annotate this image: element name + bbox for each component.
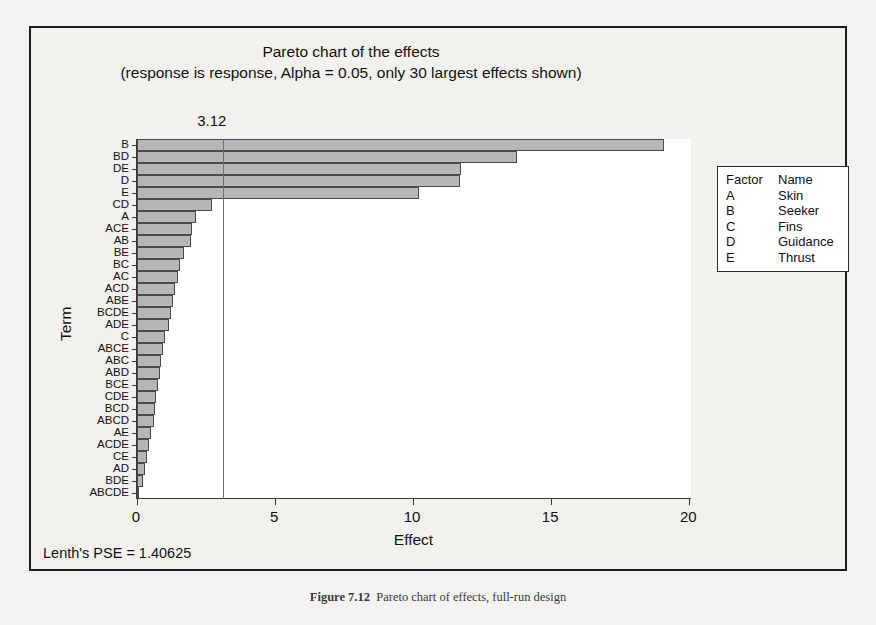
bar-fill xyxy=(137,163,461,175)
bar-ACDE xyxy=(137,439,149,451)
bar-ABCE xyxy=(137,343,163,355)
legend-row-B: BSeeker xyxy=(718,203,848,219)
x-axis-label-10: 10 xyxy=(392,508,432,525)
legend-name-C: Fins xyxy=(778,219,848,235)
x-tick-0 xyxy=(137,499,138,505)
y-axis-label-BCDE: BCDE xyxy=(31,307,129,318)
bar-CDE xyxy=(137,391,156,403)
bar-AD xyxy=(137,463,145,475)
y-axis-label-D: D xyxy=(31,175,129,186)
bar-AC xyxy=(137,271,178,283)
x-tick-20 xyxy=(689,499,690,505)
bar-ADE xyxy=(137,319,169,331)
chart-title-block: Pareto chart of the effects (response is… xyxy=(31,42,671,83)
y-axis-label-ABCD: ABCD xyxy=(31,415,129,426)
x-axis-label-0: 0 xyxy=(116,508,156,525)
y-axis-label-AB: AB xyxy=(31,235,129,246)
bar-fill xyxy=(137,259,180,271)
y-axis-label-BE: BE xyxy=(31,247,129,258)
y-tick xyxy=(132,457,137,458)
y-axis-label-AC: AC xyxy=(31,271,129,282)
bar-fill xyxy=(137,307,171,319)
bar-ACE xyxy=(137,223,192,235)
legend-name-A: Skin xyxy=(778,188,848,204)
bar-fill xyxy=(137,199,212,211)
bar-ABCD xyxy=(137,415,154,427)
y-axis-label-ABCDE: ABCDE xyxy=(31,487,129,498)
bar-B xyxy=(137,139,664,151)
y-axis-label-BDE: BDE xyxy=(31,475,129,486)
y-axis-label-ACE: ACE xyxy=(31,223,129,234)
bar-fill xyxy=(137,295,173,307)
bar-fill xyxy=(137,151,517,163)
bar-fill xyxy=(137,379,158,391)
bar-AE xyxy=(137,427,151,439)
bar-D xyxy=(137,175,460,187)
bar-ABCDE xyxy=(137,487,139,499)
reference-line xyxy=(223,139,224,499)
y-axis-label-CD: CD xyxy=(31,199,129,210)
bar-fill xyxy=(137,319,169,331)
y-axis-label-BCE: BCE xyxy=(31,379,129,390)
y-axis-label-ADE: ADE xyxy=(31,319,129,330)
bar-ABC xyxy=(137,355,161,367)
bar-BE xyxy=(137,247,184,259)
bar-fill xyxy=(137,223,192,235)
figure-caption-text: Pareto chart of effects, full-run design xyxy=(376,590,566,604)
lenths-pse-note: Lenth's PSE = 1.40625 xyxy=(43,545,191,561)
x-tick-10 xyxy=(413,499,414,505)
y-tick xyxy=(132,193,137,194)
legend-row-A: ASkin xyxy=(718,188,848,204)
y-tick xyxy=(132,289,137,290)
y-tick xyxy=(132,157,137,158)
bar-fill xyxy=(137,403,155,415)
y-tick xyxy=(132,205,137,206)
y-tick xyxy=(132,325,137,326)
factor-legend: Factor Name ASkinBSeekerCFinsDGuidanceET… xyxy=(717,166,849,272)
bar-BD xyxy=(137,151,517,163)
y-tick xyxy=(132,265,137,266)
y-tick xyxy=(132,301,137,302)
legend-row-D: DGuidance xyxy=(718,234,848,250)
y-tick xyxy=(132,181,137,182)
pareto-chart-figure: Pareto chart of the effects (response is… xyxy=(29,26,847,571)
bar-fill xyxy=(137,427,151,439)
legend-factor-E: E xyxy=(726,250,778,266)
y-tick xyxy=(132,373,137,374)
legend-factor-B: B xyxy=(726,203,778,219)
bar-fill xyxy=(137,139,664,151)
x-axis-label-20: 20 xyxy=(668,508,708,525)
bar-fill xyxy=(137,451,147,463)
bar-A xyxy=(137,211,196,223)
legend-header-name: Name xyxy=(778,172,848,188)
y-tick xyxy=(132,241,137,242)
bar-AB xyxy=(137,235,191,247)
bar-fill xyxy=(137,343,163,355)
plot-area xyxy=(136,139,691,499)
y-tick xyxy=(132,313,137,314)
bar-fill xyxy=(137,211,196,223)
y-tick xyxy=(132,385,137,386)
legend-row-E: EThrust xyxy=(718,250,848,266)
y-axis-label-ABC: ABC xyxy=(31,355,129,366)
bar-fill xyxy=(137,283,175,295)
y-tick xyxy=(132,421,137,422)
y-tick xyxy=(132,361,137,362)
chart-subtitle: (response is response, Alpha = 0.05, onl… xyxy=(31,62,671,83)
reference-line-label: 3.12 xyxy=(197,112,226,129)
y-tick xyxy=(132,409,137,410)
y-axis-label-CDE: CDE xyxy=(31,391,129,402)
x-axis-label-5: 5 xyxy=(254,508,294,525)
bar-fill xyxy=(137,367,160,379)
y-axis-label-ACDE: ACDE xyxy=(31,439,129,450)
y-axis-label-B: B xyxy=(31,139,129,150)
y-tick xyxy=(132,253,137,254)
legend-factor-C: C xyxy=(726,219,778,235)
legend-row-C: CFins xyxy=(718,219,848,235)
bar-ACD xyxy=(137,283,175,295)
y-axis-label-E: E xyxy=(31,187,129,198)
bar-fill xyxy=(137,475,143,487)
y-axis-label-AD: AD xyxy=(31,463,129,474)
bar-CE xyxy=(137,451,147,463)
bar-fill xyxy=(137,355,161,367)
